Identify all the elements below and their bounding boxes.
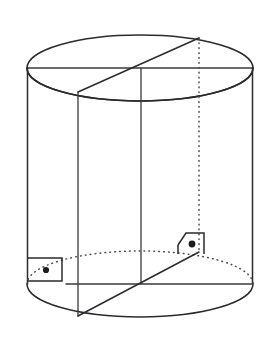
bottom-ellipse-front-arc <box>27 284 253 317</box>
right-angle-left-dot-icon <box>43 267 49 273</box>
cylinder-diagram <box>0 0 277 346</box>
right-angle-right-dot-icon <box>189 241 196 248</box>
bottom-ellipse-back-arc <box>27 251 253 284</box>
figure-root: Cylinder with two perpendicular cross-se… <box>0 0 277 346</box>
top-ellipse-front-arc <box>27 68 253 101</box>
top-diagonal-chord <box>78 38 199 92</box>
